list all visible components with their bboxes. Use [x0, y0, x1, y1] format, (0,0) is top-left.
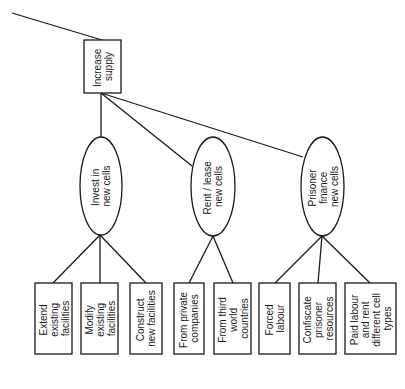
leaf-label: Confiscate prisoner resources: [302, 293, 335, 343]
leaf-from-private-companies: From private companies: [174, 283, 204, 354]
leaf-paid-labour-and-rent: Paid labour and rent different cell type…: [345, 283, 396, 354]
leaf-label: Forced labour: [264, 302, 286, 336]
branch-node-rent-lease: Rent / lease new cells: [191, 137, 235, 236]
leaf-forced-labour: Forced labour: [259, 283, 290, 354]
edge-incoming-to-root: [12, 13, 102, 40]
edge-prisoner-to-confiscate: [318, 236, 322, 283]
edge-rent-to-private: [189, 236, 213, 283]
leaf-construct-new-facilities: Construct new facilities: [130, 283, 162, 354]
edge-prisoner-to-paid: [322, 236, 370, 283]
leaf-label: Construct new facilities: [135, 290, 157, 347]
root-node-label: Increase supply: [92, 46, 114, 87]
branch-prisoner-label: Prisoner finance new cells: [307, 166, 340, 207]
leaf-confiscate-prisoner-resources: Confiscate prisoner resources: [299, 283, 336, 354]
leaf-from-third-world-countries: From third world countries: [214, 283, 251, 354]
edge-invest-to-construct: [100, 235, 146, 283]
root-node-increase-supply: Increase supply: [84, 40, 121, 93]
leaf-extend-existing-facilities: Extend existing facilities: [35, 283, 72, 354]
edge-rent-to-thirdworld: [213, 236, 233, 283]
edge-invest-to-extend: [53, 235, 100, 283]
leaf-label: From private companies: [178, 289, 200, 348]
branch-invest-label: Invest in new cells: [90, 165, 112, 206]
branch-node-invest: Invest in new cells: [80, 137, 122, 235]
leaf-label: Modify existing facilities: [84, 300, 117, 337]
leaf-label: Extend existing facilities: [38, 300, 71, 337]
tree-diagram: Increase supply Invest in new cells Rent…: [0, 0, 405, 389]
leaf-modify-existing-facilities: Modify existing facilities: [81, 283, 118, 354]
edge-prisoner-to-forced: [275, 236, 322, 283]
branch-rent-label: Rent / lease new cells: [202, 158, 224, 214]
branch-node-prisoner-finance: Prisoner finance new cells: [301, 137, 344, 236]
